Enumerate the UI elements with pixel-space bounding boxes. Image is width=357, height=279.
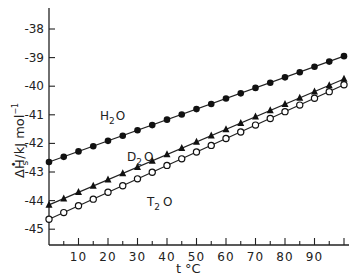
series-label-d2o: D2O [127,150,153,167]
data-point-filled-circle [60,154,67,161]
data-point-filled-circle [341,53,348,60]
data-point-open-circle [326,89,332,95]
data-point-open-circle [134,176,140,182]
data-point-filled-circle [326,58,333,65]
series-group [46,53,348,222]
y-tick-label: -40 [24,79,44,93]
data-point-open-circle [252,122,258,128]
data-point-filled-circle [208,101,215,108]
data-point-open-circle [120,183,126,189]
data-point-open-circle [297,102,303,108]
data-point-filled-circle [134,127,141,134]
data-point-filled-circle [178,111,185,118]
data-point-filled-circle [90,143,97,150]
data-point-open-circle [341,82,347,88]
y-tick-label: -41 [24,108,44,122]
series-t2o [46,82,347,223]
data-point-filled-circle [223,95,230,102]
y-tick-label: -43 [24,165,44,179]
series-d2o [46,75,348,208]
data-point-open-circle [75,203,81,209]
y-tick-label: -38 [24,22,44,36]
data-point-open-circle [61,210,67,216]
x-axis-title: t°C [176,261,201,276]
data-point-open-circle [208,142,214,148]
data-point-open-circle [311,95,317,101]
x-tick-label: 30 [129,250,146,264]
chart: -38-39-40-41-42-43-44-451020304050607080… [0,0,357,279]
data-point-filled-circle [296,69,303,76]
data-point-filled-circle [237,90,244,97]
data-point-filled-circle [75,148,82,155]
series-labels: H2O D2O T2O [100,109,173,212]
x-tick-label: 20 [99,250,116,264]
svg-text:t°C: t°C [176,261,201,276]
data-point-filled-circle [267,79,274,86]
data-point-open-circle [282,109,288,115]
x-tick-label: 40 [158,250,175,264]
data-point-filled-circle [252,85,259,92]
data-point-triangle [341,75,348,82]
data-point-open-circle [90,196,96,202]
data-point-filled-circle [193,106,200,113]
data-point-filled-circle [282,74,289,81]
y-tick-label: -45 [24,222,44,236]
x-tick-label: 10 [70,250,87,264]
data-point-open-circle [46,216,52,222]
data-point-filled-circle [149,122,156,129]
data-point-open-circle [179,156,185,162]
data-point-open-circle [223,135,229,141]
data-point-open-circle [164,162,170,168]
y-tick-label: -39 [24,51,44,65]
series-label-t2o: T2O [146,195,173,212]
data-point-open-circle [149,169,155,175]
data-point-filled-circle [105,138,112,145]
x-tick-label: 60 [217,250,234,264]
data-point-filled-circle [164,116,171,123]
data-point-filled-circle [119,132,126,139]
data-point-filled-circle [46,159,53,166]
axes: -38-39-40-41-42-43-44-451020304050607080… [24,8,349,264]
data-point-open-circle [238,129,244,135]
data-point-filled-circle [311,63,318,70]
y-tick-label: -44 [24,194,44,208]
data-point-open-circle [105,189,111,195]
series-label-h2o: H2O [100,109,125,126]
y-tick-label: -42 [24,136,44,150]
x-tick-label: 90 [306,250,323,264]
x-tick-label: 80 [276,250,293,264]
data-point-open-circle [193,149,199,155]
data-point-open-circle [267,115,273,121]
x-tick-label: 70 [247,250,264,264]
